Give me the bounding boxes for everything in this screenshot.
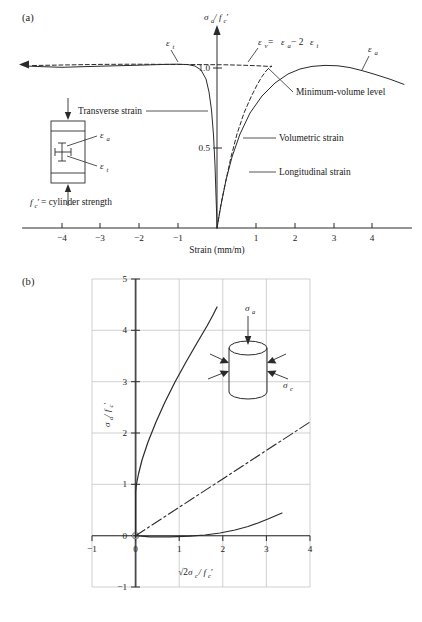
y-axis-sigma-a: σ	[204, 12, 209, 22]
y-axis-f-b: f	[102, 408, 112, 412]
annotation-transverse-strain: Transverse strain	[78, 106, 208, 116]
cylinder-inset: σ a σ c	[208, 303, 293, 399]
cylinder-sigma-c-symbol: σ	[283, 380, 288, 390]
y-axis-prime-a: ′	[227, 12, 229, 22]
y-axis-slash-a: /	[213, 12, 218, 22]
panel-b: 5 4 3 2 1 0 −1 −1 0 1 2 3 4 √	[0, 252, 422, 622]
y-axis-slash-b: /	[102, 413, 112, 418]
x-tick-label-b-2: 1	[177, 544, 182, 554]
cylinder-sigma-c-subscript: c	[290, 385, 293, 392]
caption-f: f	[30, 197, 34, 207]
curve-tensile-meridian	[136, 513, 282, 537]
confining-arrow-shaft-lr	[273, 373, 288, 379]
y-tick-label-b-1: 4	[122, 325, 127, 335]
annotation-volumetric-strain-label: Volumetric strain	[279, 133, 344, 143]
specimen-eps-t-subscript: t	[107, 166, 109, 173]
volumetric-equation: ε v = ε a − 2 ε t	[248, 37, 319, 62]
confining-arrowhead-ur	[267, 357, 277, 364]
y-tick-label-b-5: 0	[122, 531, 127, 541]
curve-compression-meridian	[136, 307, 217, 536]
eq-eps-t-sub: t	[317, 42, 319, 49]
x-tick-label-b-1: 0	[133, 544, 138, 554]
x-tick-label-a-5: 2	[293, 233, 298, 243]
cylinder-sigma-a-symbol: σ	[245, 303, 250, 313]
specimen-eps-t-symbol: ε	[100, 161, 104, 171]
caption-rest: = cylinder strength	[41, 197, 112, 207]
eps-t-leader	[171, 50, 178, 62]
x-tick-label-b-5: 4	[308, 544, 313, 554]
confining-arrow-shaft-ll	[208, 373, 223, 379]
y-tick-label-b-0: 5	[122, 274, 127, 284]
eps-a-subscript: a	[375, 49, 379, 56]
x-tick-label-b-3: 2	[221, 544, 226, 554]
x-tick-label-a-7: 4	[370, 233, 375, 243]
transverse-curve-arrow	[19, 61, 29, 69]
volumetric-eq-leader	[248, 48, 258, 62]
eq-eps-t: ε	[310, 37, 314, 47]
y-tick-label-a-1: 0.5	[199, 143, 211, 153]
x-axis-f-b: f	[204, 567, 208, 577]
annotation-minimum-volume-label: Minimum-volume level	[296, 87, 386, 97]
x-tick-label-a-1: −3	[95, 233, 105, 243]
specimen-top-load-arrowhead	[65, 112, 71, 120]
eps-t-subscript: t	[173, 43, 175, 50]
transverse-gauge-leader	[67, 156, 97, 166]
y-axis-title-a: σ a / f c ′	[204, 12, 229, 24]
x-tick-label-a-3: −1	[173, 233, 183, 243]
specimen-bottom-load-arrowhead	[65, 184, 71, 192]
eps-t-symbol: ε	[166, 38, 170, 48]
annotation-minimum-volume-leader	[268, 68, 293, 92]
x-axis-title-b: √2 σ c / f c ′	[178, 567, 213, 579]
y-axis-arrow-a	[213, 25, 220, 35]
panel-b-plot: 5 4 3 2 1 0 −1 −1 0 1 2 3 4 √	[0, 252, 422, 622]
annotation-volumetric-strain: Volumetric strain	[243, 133, 344, 143]
eq-eps-a: ε	[281, 37, 285, 47]
eq-eps-v: ε	[258, 37, 262, 47]
panel-a-plot: −4 −3 −2 −1 1 2 3 4 Strain (mm/m) σ a / …	[0, 0, 422, 252]
y-tick-label-b-2: 3	[122, 377, 127, 387]
x-axis-radical-b: √2	[178, 567, 188, 577]
annotation-longitudinal-strain: Longitudinal strain	[249, 167, 351, 177]
annotation-transverse-strain-label: Transverse strain	[78, 106, 142, 116]
y-tick-label-b-4: 1	[122, 479, 127, 489]
specimen-eps-a-subscript: a	[107, 135, 111, 142]
x-tick-label-a-6: 3	[332, 233, 337, 243]
y-tick-label-b-6: −1	[117, 582, 127, 592]
panel-a-label: (a)	[22, 12, 34, 23]
cylinder-body	[229, 348, 267, 399]
panel-a: −4 −3 −2 −1 1 2 3 4 Strain (mm/m) σ a / …	[0, 0, 422, 252]
cylinder-sigma-a-subscript: a	[252, 308, 256, 315]
specimen-eps-a-symbol: ε	[100, 130, 104, 140]
axial-gauge-leader	[67, 136, 97, 146]
curve-label-transverse: ε t	[166, 38, 178, 62]
confining-arrow-shaft-ul	[210, 354, 223, 360]
confining-arrowhead-ul	[220, 357, 230, 364]
x-tick-label-b-4: 3	[264, 544, 269, 554]
x-tick-label-a-0: −4	[57, 233, 67, 243]
x-tick-label-b-0: −1	[87, 544, 97, 554]
confining-arrow-shaft-ur	[273, 354, 286, 360]
specimen-caption: f c ′ = cylinder strength	[30, 197, 112, 209]
x-axis-prime-b: ′	[211, 567, 213, 577]
annotation-longitudinal-strain-label: Longitudinal strain	[279, 167, 351, 177]
y-axis-title-b: σ a / f c ′	[102, 402, 114, 427]
eps-a-symbol: ε	[368, 44, 372, 54]
caption-f-prime: ′	[38, 197, 40, 207]
y-axis-prime-b: ′	[102, 402, 112, 404]
figure-container: −4 −3 −2 −1 1 2 3 4 Strain (mm/m) σ a / …	[0, 0, 422, 622]
y-tick-label-b-3: 2	[122, 428, 127, 438]
x-axis-sigma-b: σ	[188, 567, 193, 577]
panel-b-label: (b)	[22, 276, 35, 287]
x-axis-slash-b: /	[198, 567, 203, 577]
curve-label-axial: ε a	[362, 44, 379, 70]
eq-minus-two: − 2	[291, 37, 304, 47]
eq-equals: =	[268, 37, 273, 47]
x-tick-label-a-4: 1	[254, 233, 259, 243]
eps-a-leader	[362, 56, 369, 70]
x-tick-label-a-2: −2	[134, 233, 144, 243]
y-axis-f-a: f	[219, 12, 223, 22]
y-axis-sigma-b: σ	[102, 422, 112, 427]
